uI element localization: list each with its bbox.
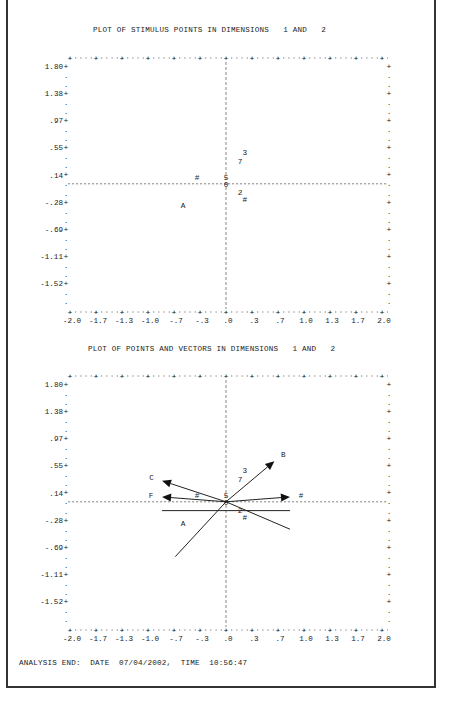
left-edge-mark: . xyxy=(64,453,68,461)
tick-plus: + xyxy=(328,626,333,635)
tick-plus: + xyxy=(120,626,125,635)
x-tick-label: -1.3 xyxy=(115,635,134,643)
left-edge-mark: . xyxy=(64,471,68,479)
x-tick-label: -1.0 xyxy=(141,635,160,643)
stimulus-point-label: # xyxy=(195,492,200,500)
right-edge-mark: . xyxy=(387,480,391,488)
vector-line xyxy=(175,502,226,557)
tick-plus: + xyxy=(380,626,385,635)
right-edge-mark: + xyxy=(387,407,392,416)
right-edge-mark: + xyxy=(387,434,392,443)
left-edge-mark: . xyxy=(64,562,68,570)
stimulus-point-label: 0 xyxy=(224,499,229,507)
left-edge-mark: + xyxy=(64,434,69,443)
x-tick-label: -.7 xyxy=(169,635,183,643)
left-edge-mark: . xyxy=(64,444,68,452)
left-edge-mark: + xyxy=(64,461,69,470)
tick-plus: + xyxy=(94,626,99,635)
plot-2-frame: +++++++++++++++++++++++++++..+..+..+..+.… xyxy=(40,372,391,643)
left-edge-mark: + xyxy=(64,570,69,579)
stimulus-point-label: A xyxy=(181,520,186,528)
right-edge-mark: . xyxy=(387,589,391,597)
left-edge-mark: + xyxy=(64,380,69,389)
x-tick-label: .0 xyxy=(223,635,233,643)
analysis-end-footer: ANALYSIS END: DATE 07/04/2002, TIME 10:5… xyxy=(19,660,247,668)
stimulus-point-label: 7 xyxy=(238,476,243,484)
left-edge-mark: . xyxy=(64,480,68,488)
right-edge-mark: . xyxy=(387,471,391,479)
right-edge-mark: . xyxy=(387,444,391,452)
tick-plus: + xyxy=(120,372,125,381)
left-edge-mark: . xyxy=(64,589,68,597)
x-tick-label: 1.3 xyxy=(325,635,339,643)
vector-label: F xyxy=(149,492,154,500)
right-edge-mark: . xyxy=(387,616,391,624)
right-edge-mark: . xyxy=(387,417,391,425)
right-edge-mark: + xyxy=(387,380,392,389)
right-edge-mark: . xyxy=(387,607,391,615)
left-edge-mark: . xyxy=(64,553,68,561)
x-tick-label: 1.7 xyxy=(351,635,365,643)
y-tick-label: -1.11 xyxy=(40,571,63,579)
y-tick-label: .14 xyxy=(49,490,63,498)
right-edge-mark: . xyxy=(387,526,391,534)
right-edge-mark: . xyxy=(387,553,391,561)
tick-plus: + xyxy=(250,372,255,381)
left-edge-mark: . xyxy=(64,535,68,543)
vector-arrowhead-icon xyxy=(265,461,274,470)
left-edge-mark: . xyxy=(64,616,68,624)
x-tick-label: .3 xyxy=(249,635,259,643)
vector-arrowhead-icon xyxy=(281,494,290,502)
stimulus-point-label: 3 xyxy=(242,467,247,475)
y-tick-label: -.28 xyxy=(45,517,64,525)
x-tick-label: -.3 xyxy=(195,635,209,643)
left-edge-mark: . xyxy=(64,526,68,534)
right-edge-mark: + xyxy=(387,488,392,497)
y-tick-label: -1.52 xyxy=(40,598,63,606)
left-edge-mark: + xyxy=(64,597,69,606)
y-tick-label: 1.38 xyxy=(45,408,64,416)
tick-plus: + xyxy=(380,372,385,381)
tick-plus: + xyxy=(302,372,307,381)
y-tick-label: .97 xyxy=(49,435,63,443)
x-tick-label: 2.0 xyxy=(377,635,391,643)
y-tick-label: -.69 xyxy=(45,544,64,552)
right-edge-mark: . xyxy=(387,390,391,398)
x-tick-label: .7 xyxy=(275,635,284,643)
left-edge-mark: . xyxy=(64,417,68,425)
right-edge-mark: . xyxy=(387,453,391,461)
tick-plus: + xyxy=(276,626,281,635)
right-edge-mark: . xyxy=(387,562,391,570)
tick-plus: + xyxy=(354,626,359,635)
x-tick-label: 1.0 xyxy=(299,635,313,643)
left-edge-mark: . xyxy=(64,498,68,506)
x-tick-label: -2.0 xyxy=(63,635,82,643)
tick-plus: + xyxy=(94,372,99,381)
left-edge-mark: . xyxy=(64,426,68,434)
tick-plus: + xyxy=(276,372,281,381)
vector-line xyxy=(226,502,290,529)
tick-plus: + xyxy=(146,626,151,635)
y-tick-label: 1.80 xyxy=(45,381,64,389)
tick-plus: + xyxy=(68,626,73,635)
tick-plus: + xyxy=(224,372,229,381)
right-edge-mark: + xyxy=(387,543,392,552)
right-edge-mark: . xyxy=(387,426,391,434)
right-edge-mark: . xyxy=(387,535,391,543)
y-tick-label: .55 xyxy=(49,462,63,470)
left-edge-mark: . xyxy=(64,607,68,615)
x-tick-label: -1.7 xyxy=(89,635,107,643)
tick-plus: + xyxy=(146,372,151,381)
right-edge-mark: + xyxy=(387,461,392,470)
right-edge-mark: . xyxy=(387,508,391,516)
right-edge-mark: . xyxy=(387,580,391,588)
vector-arrowhead-icon xyxy=(162,480,172,488)
right-edge-mark: . xyxy=(387,498,391,506)
tick-plus: + xyxy=(198,626,203,635)
plot-2-points-and-vectors: +++++++++++++++++++++++++++..+..+..+..+.… xyxy=(0,0,449,702)
right-edge-mark: . xyxy=(387,399,391,407)
right-edge-mark: + xyxy=(387,516,392,525)
left-edge-mark: + xyxy=(64,407,69,416)
left-edge-mark: + xyxy=(64,488,69,497)
vector-arrowhead-icon xyxy=(162,494,171,502)
